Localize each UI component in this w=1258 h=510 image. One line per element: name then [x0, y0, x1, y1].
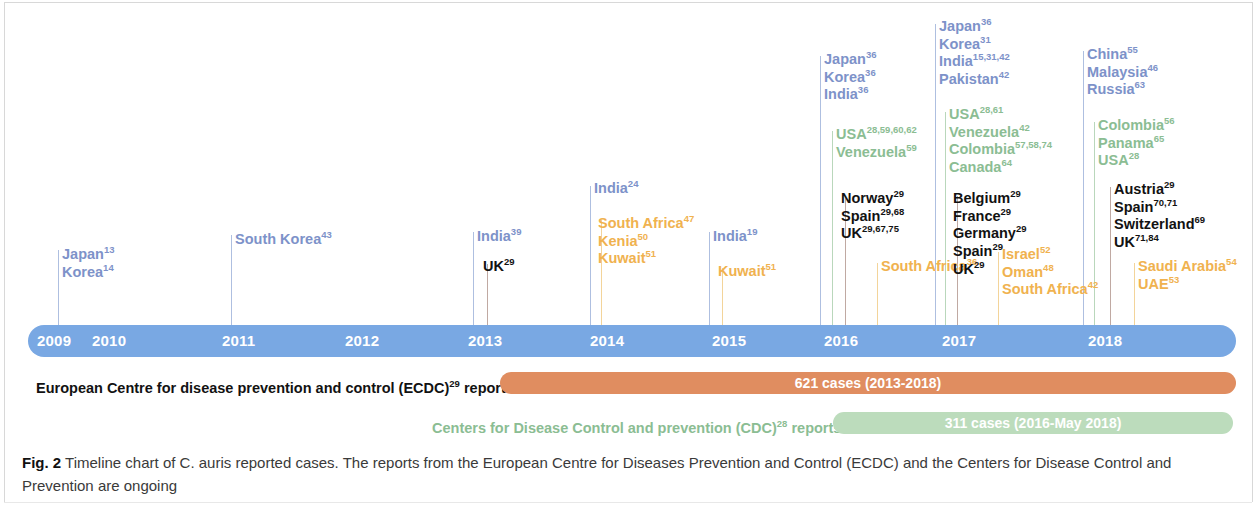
frame-border-left — [4, 2, 5, 502]
reference-superscript: 51 — [646, 249, 657, 260]
reference-superscript: 57,58,74 — [1015, 140, 1052, 151]
reference-superscript: 53 — [1169, 274, 1180, 285]
country-name: Venezuela — [836, 144, 906, 160]
reference-superscript: 59 — [906, 142, 917, 153]
country-group-2018-black: Austria29Spain70,71Switzerland69UK71,84 — [1114, 181, 1205, 252]
country-group-2016-black: Norway29Spain29,68UK29,67,75 — [841, 190, 904, 243]
reference-superscript: 65 — [1154, 133, 1165, 144]
frame-border-bottom — [4, 502, 1252, 503]
reference-superscript: 55 — [1127, 44, 1138, 55]
country-entry: Venezuela59 — [836, 144, 917, 162]
reference-superscript: 29 — [1010, 188, 1021, 199]
country-name: USA — [836, 126, 867, 142]
country-name: Norway — [841, 190, 893, 206]
leader-line-2009-blue — [58, 250, 59, 325]
country-name: Switzerland — [1114, 216, 1195, 232]
country-group-2015-blue: India19 — [713, 228, 757, 246]
leader-line-2015-blue — [709, 232, 710, 325]
reference-superscript: 64 — [1001, 157, 1012, 168]
country-name: France — [953, 208, 1001, 224]
country-name: Germany — [953, 225, 1016, 241]
year-label-2015: 2015 — [712, 332, 746, 349]
country-entry: Saudi Arabia54 — [1138, 258, 1237, 276]
reference-superscript: 29 — [893, 188, 904, 199]
country-group-2011-blue: South Korea43 — [235, 231, 332, 249]
country-group-2013-black: UK29 — [483, 258, 515, 276]
country-name: India — [477, 228, 511, 244]
country-name: India — [824, 86, 858, 102]
reference-superscript: 51 — [766, 261, 777, 272]
country-name: UAE — [1138, 276, 1169, 292]
reference-superscript: 46 — [1147, 62, 1158, 73]
reference-superscript: 29 — [1016, 224, 1027, 235]
leader-line-2017-blue — [935, 24, 936, 325]
year-label-2017: 2017 — [942, 332, 976, 349]
country-entry: Spain70,71 — [1114, 199, 1205, 217]
country-entry: South Africa42 — [1002, 281, 1098, 299]
reference-superscript: 14 — [103, 262, 114, 273]
country-entry: USA28,61 — [949, 106, 1052, 124]
country-entry: South Korea43 — [235, 231, 332, 249]
country-name: South Africa — [1002, 281, 1088, 297]
country-name: Austria — [1114, 181, 1164, 197]
reference-superscript: 29 — [449, 378, 460, 389]
figure-timeline-chart: Japan13Korea14South Korea43India39UK29In… — [0, 0, 1258, 510]
reference-superscript: 47 — [684, 213, 695, 224]
cdc-report-label: Centers for Disease Control and preventi… — [432, 412, 841, 436]
ecdc-report-bar-text: 621 cases (2013-2018) — [500, 372, 1236, 394]
reference-superscript: 29,67,75 — [862, 224, 899, 235]
country-group-2017-blue: Japan36Korea31India15,31,42Pakistan42 — [939, 18, 1010, 89]
country-name: Russia — [1087, 81, 1135, 97]
reference-superscript: 36 — [858, 85, 869, 96]
cdc-report-bar-text: 311 cases (2016-May 2018) — [833, 412, 1233, 434]
country-name: South Africa — [598, 215, 684, 231]
country-name: Japan — [824, 51, 866, 67]
reference-superscript: 29 — [1164, 179, 1175, 190]
reference-superscript: 29,68 — [880, 206, 904, 217]
country-name: India — [594, 180, 628, 196]
country-name: Venezuela — [949, 124, 1019, 140]
leader-line-2018-orange — [1134, 263, 1135, 325]
country-entry: UK29,67,75 — [841, 225, 904, 243]
reference-superscript: 13 — [104, 244, 115, 255]
country-name: Colombia — [949, 141, 1015, 157]
country-name: UK — [1114, 234, 1135, 250]
year-label-2016: 2016 — [824, 332, 858, 349]
country-name: Kuwait — [718, 263, 766, 279]
year-label-2018: 2018 — [1088, 332, 1122, 349]
reference-superscript: 69 — [1195, 215, 1206, 226]
country-name: Spain — [1114, 199, 1153, 215]
year-label-2012: 2012 — [345, 332, 379, 349]
figure-caption-tag: Fig. 2 — [22, 454, 61, 471]
country-name: Panama — [1098, 135, 1154, 151]
country-entry: Korea14 — [62, 264, 115, 282]
country-group-2017-green: USA28,61Venezuela42Colombia57,58,74Canad… — [949, 106, 1052, 177]
year-label-2011: 2011 — [222, 332, 255, 349]
reference-superscript: 28,59,60,62 — [867, 124, 917, 135]
country-entry: Pakistan42 — [939, 71, 1010, 89]
country-entry: Japan36 — [939, 18, 1010, 36]
country-name: India — [939, 53, 973, 69]
country-group-2009-blue: Japan13Korea14 — [62, 246, 115, 281]
country-name: Belgium — [953, 190, 1010, 206]
reference-superscript: 29 — [504, 256, 515, 267]
country-name: UK — [953, 261, 974, 277]
reference-superscript: 28 — [1129, 151, 1140, 162]
country-name: UK — [483, 258, 504, 274]
country-name: Kenia — [598, 233, 638, 249]
country-entry: USA28 — [1098, 152, 1175, 170]
country-name: Korea — [939, 36, 980, 52]
year-label-2014: 2014 — [590, 332, 624, 349]
country-entry: Malaysia46 — [1087, 64, 1158, 82]
country-group-2018-green: Colombia56Panama65USA28 — [1098, 117, 1175, 170]
country-group-2016-blue: Japan36Korea36India36 — [824, 51, 877, 104]
reference-superscript: 42 — [999, 69, 1010, 80]
country-entry: Oman48 — [1002, 264, 1098, 282]
figure-caption: Fig. 2 Timeline chart of C. auris report… — [22, 452, 1232, 497]
reference-superscript: 24 — [628, 178, 639, 189]
country-name: Malaysia — [1087, 64, 1147, 80]
country-name: UK — [841, 225, 862, 241]
country-name: USA — [1098, 152, 1129, 168]
reference-superscript: 31 — [980, 34, 991, 45]
leader-line-2016-blue — [820, 56, 821, 325]
